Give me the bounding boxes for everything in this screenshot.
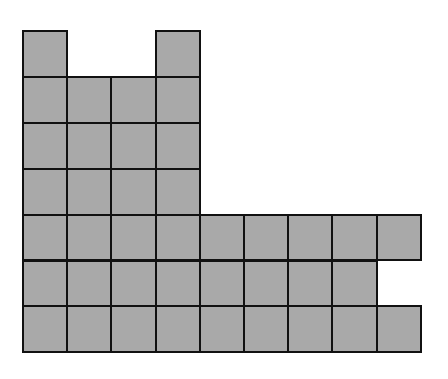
grid-square — [22, 122, 68, 170]
grid-square — [155, 76, 201, 124]
grid-square — [155, 260, 201, 308]
grid-square — [22, 168, 68, 216]
grid-square — [155, 305, 201, 353]
grid-square — [66, 305, 112, 353]
grid-figure — [0, 0, 448, 379]
grid-square — [287, 214, 333, 262]
grid-square — [199, 305, 245, 353]
grid-square — [66, 260, 112, 308]
grid-square — [22, 305, 68, 353]
grid-square — [66, 168, 112, 216]
grid-square — [155, 214, 201, 262]
grid-square — [110, 260, 156, 308]
grid-square — [331, 305, 377, 353]
grid-square — [22, 30, 68, 78]
grid-square — [287, 260, 333, 308]
grid-square — [66, 214, 112, 262]
grid-square — [376, 214, 422, 262]
grid-square — [110, 168, 156, 216]
grid-square — [110, 305, 156, 353]
grid-square — [331, 260, 377, 308]
grid-square — [287, 305, 333, 353]
grid-square — [66, 76, 112, 124]
grid-square — [155, 122, 201, 170]
grid-square — [110, 214, 156, 262]
grid-square — [155, 168, 201, 216]
grid-square — [376, 305, 422, 353]
grid-square — [22, 214, 68, 262]
grid-square — [22, 260, 68, 308]
grid-square — [66, 122, 112, 170]
grid-square — [243, 305, 289, 353]
grid-square — [199, 214, 245, 262]
grid-square — [110, 122, 156, 170]
grid-square — [155, 30, 201, 78]
grid-square — [110, 76, 156, 124]
grid-square — [22, 76, 68, 124]
grid-square — [199, 260, 245, 308]
grid-square — [243, 214, 289, 262]
grid-square — [331, 214, 377, 262]
grid-square — [243, 260, 289, 308]
